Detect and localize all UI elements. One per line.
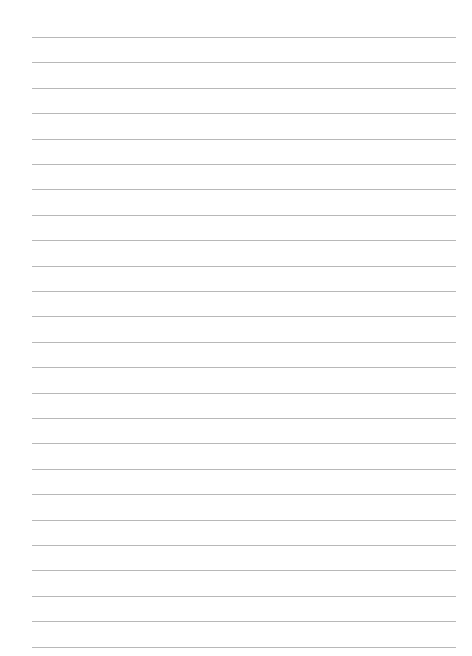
ruled-line bbox=[32, 469, 456, 470]
ruled-line bbox=[32, 596, 456, 597]
ruled-line bbox=[32, 494, 456, 495]
ruled-line bbox=[32, 189, 456, 190]
ruled-line bbox=[32, 164, 456, 165]
ruled-line bbox=[32, 316, 456, 317]
ruled-line bbox=[32, 342, 456, 343]
ruled-line bbox=[32, 443, 456, 444]
ruled-line bbox=[32, 621, 456, 622]
ruled-line bbox=[32, 393, 456, 394]
ruled-line bbox=[32, 266, 456, 267]
ruled-line bbox=[32, 291, 456, 292]
ruled-line bbox=[32, 520, 456, 521]
ruled-line bbox=[32, 570, 456, 571]
ruled-line bbox=[32, 215, 456, 216]
ruled-line bbox=[32, 139, 456, 140]
ruled-line bbox=[32, 88, 456, 89]
lined-paper-page bbox=[0, 0, 472, 656]
ruled-line bbox=[32, 113, 456, 114]
ruled-line bbox=[32, 240, 456, 241]
ruled-line bbox=[32, 62, 456, 63]
ruled-line bbox=[32, 418, 456, 419]
ruled-line bbox=[32, 367, 456, 368]
ruled-line bbox=[32, 37, 456, 38]
ruled-line bbox=[32, 545, 456, 546]
ruled-line bbox=[32, 647, 456, 648]
